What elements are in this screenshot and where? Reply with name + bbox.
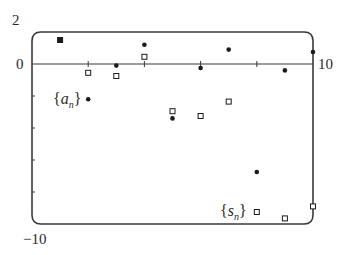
point-a-n — [170, 116, 175, 121]
brace-close: } — [74, 90, 82, 107]
point-s-n — [114, 74, 119, 79]
point-a-n — [86, 97, 91, 102]
series-label-s-n: {sn} — [220, 203, 247, 222]
point-s-n — [311, 204, 316, 209]
x-max-label: 10 — [318, 57, 333, 72]
brace-open: { — [220, 202, 228, 219]
series-label-a-n: {an} — [53, 91, 81, 110]
point-s-n — [282, 216, 287, 221]
point-a-n — [226, 47, 231, 52]
point-a-n — [254, 170, 259, 175]
y-min-label: −10 — [23, 232, 46, 247]
brace-open: { — [53, 90, 61, 107]
point-a-n — [142, 43, 147, 48]
point-s-n — [58, 38, 63, 43]
y-zero-label: 0 — [16, 57, 24, 72]
point-s-n — [170, 109, 175, 114]
brace-close: } — [239, 202, 247, 219]
point-a-n — [311, 50, 316, 55]
plot-frame — [32, 32, 313, 224]
point-s-n — [198, 114, 203, 119]
point-s-n — [86, 70, 91, 75]
point-s-n — [142, 54, 147, 59]
point-s-n — [226, 99, 231, 104]
point-a-n — [198, 66, 203, 71]
point-s-n — [254, 210, 259, 215]
series-a-symbol: a — [61, 90, 69, 107]
y-max-label: 2 — [12, 13, 20, 28]
point-a-n — [283, 68, 288, 73]
point-a-n — [114, 63, 119, 68]
chart-plot-area — [0, 0, 349, 255]
